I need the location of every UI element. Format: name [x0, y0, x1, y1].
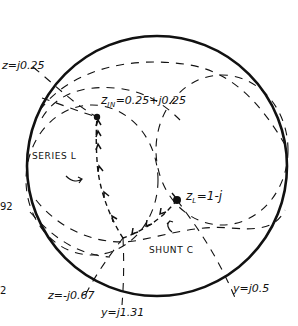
label-y-bottom: y=j1.31	[101, 307, 144, 318]
label-z-load-value: =1-j	[197, 189, 222, 203]
label-shunt-c: SHUNT C	[149, 246, 194, 255]
arrowhead-icon	[96, 120, 101, 126]
arrowhead-icon	[98, 166, 103, 172]
z-load-point	[173, 196, 181, 204]
arrowhead-icon	[132, 228, 138, 234]
dashed-arc-lower-left-2	[30, 212, 110, 257]
label-series-l-text: SERIES L	[32, 151, 76, 161]
label-z-in-sub: IN	[107, 101, 115, 109]
arrowhead-icon	[146, 220, 152, 226]
shunt-c-path	[123, 200, 177, 238]
label-y-right: y=j0.5	[233, 283, 269, 294]
label-z-top: z=j0.25	[2, 60, 45, 71]
z-in-point	[94, 114, 100, 120]
label-z-load: zL=1-j	[186, 190, 222, 202]
label-edge-left-2: 2	[0, 286, 6, 296]
dashed-line-to-ybottom	[122, 238, 124, 305]
label-z-in: zIN=0.25+j0.25	[101, 94, 186, 106]
dashed-arc-lower-left	[36, 200, 285, 242]
label-shunt-c-text: SHUNT C	[149, 245, 194, 255]
label-series-l: SERIES L	[32, 152, 76, 161]
smith-chart-canvas	[0, 0, 298, 326]
arrowhead-icon	[160, 208, 166, 214]
smith-chart-outer-circle	[27, 36, 287, 296]
label-edge-left-1: 92	[0, 202, 13, 212]
arrowhead-icon	[104, 192, 109, 198]
arrowhead-icon	[112, 216, 117, 222]
shunt-c-pointer	[167, 221, 173, 232]
series-l-pointer	[66, 176, 82, 183]
label-z-bottom: z=-j0.67	[48, 290, 95, 301]
label-z-in-value: =0.25+j0.25	[116, 94, 186, 107]
arrowhead-icon	[96, 144, 101, 150]
label-z-load-sub: L	[192, 197, 196, 205]
dashed-line-to-zbottom	[85, 238, 123, 296]
z-load-tick	[172, 193, 176, 198]
dashed-arc-zin-reactance	[42, 98, 97, 117]
